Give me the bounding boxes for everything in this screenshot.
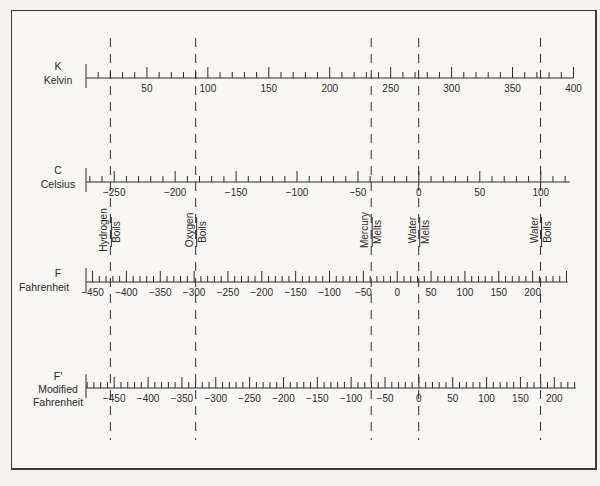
tick-label: −350 bbox=[149, 287, 172, 298]
tick-label: −400 bbox=[137, 393, 160, 404]
water-boils-label-line2: Boils bbox=[542, 221, 553, 243]
tick-label: −350 bbox=[171, 393, 194, 404]
oxygen-boils-label-line1: Oxygen bbox=[184, 213, 195, 247]
mercury-melts-label-line2: Melts bbox=[372, 220, 383, 244]
modified-fahrenheit-name-line1: Modified bbox=[38, 383, 78, 395]
tick-label: −100 bbox=[340, 393, 363, 404]
fahrenheit-symbol: F bbox=[55, 267, 61, 279]
tick-label: −50 bbox=[377, 393, 394, 404]
tick-label: −50 bbox=[355, 287, 372, 298]
tick-label: −100 bbox=[318, 287, 341, 298]
tick-label: 100 bbox=[200, 83, 217, 94]
modified-fahrenheit-name-line2: Fahrenheit bbox=[33, 396, 83, 408]
tick-label: 300 bbox=[443, 83, 460, 94]
tick-label: −300 bbox=[183, 287, 206, 298]
water-boils-label-line1: Water bbox=[529, 216, 540, 243]
tick-label: −100 bbox=[286, 187, 309, 198]
fahrenheit-name: Fahrenheit bbox=[19, 281, 69, 293]
tick-label: 200 bbox=[546, 393, 563, 404]
tick-label: 200 bbox=[524, 287, 541, 298]
fahrenheit-scale: F Fahrenheit −450−400−350−300−250−200−15… bbox=[19, 267, 568, 298]
kelvin-name: Kelvin bbox=[44, 74, 73, 86]
tick-label: −200 bbox=[272, 393, 295, 404]
tick-label: 100 bbox=[457, 287, 474, 298]
tick-label: −200 bbox=[164, 187, 187, 198]
tick-label: 0 bbox=[394, 287, 400, 298]
mercury-melts-label-line1: Mercury bbox=[359, 212, 370, 248]
tick-label: 350 bbox=[504, 83, 521, 94]
tick-label: 0 bbox=[416, 393, 422, 404]
oxygen-boils-label-line2: Boils bbox=[197, 221, 208, 243]
tick-label: −250 bbox=[103, 187, 126, 198]
tick-label: −450 bbox=[103, 393, 126, 404]
tick-label: 200 bbox=[321, 83, 338, 94]
tick-label: −250 bbox=[217, 287, 240, 298]
tick-label: 100 bbox=[532, 187, 549, 198]
tick-label: −200 bbox=[251, 287, 274, 298]
modified-fahrenheit-symbol: F′ bbox=[54, 370, 62, 382]
tick-label: −150 bbox=[284, 287, 307, 298]
tick-label: 150 bbox=[260, 83, 277, 94]
hydrogen-boils-label-line2: Boils bbox=[111, 221, 122, 243]
tick-label: −150 bbox=[306, 393, 329, 404]
tick-label: −50 bbox=[349, 187, 366, 198]
tick-label: −150 bbox=[225, 187, 248, 198]
tick-label: −250 bbox=[238, 393, 261, 404]
tick-label: 250 bbox=[382, 83, 399, 94]
celsius-symbol: C bbox=[54, 164, 62, 176]
celsius-name: Celsius bbox=[41, 178, 75, 190]
tick-label: 400 bbox=[565, 83, 582, 94]
reference-dashed-lines bbox=[110, 38, 540, 440]
tick-label: −400 bbox=[115, 287, 138, 298]
tick-label: −300 bbox=[205, 393, 228, 404]
tick-label: −450 bbox=[81, 287, 104, 298]
water-melts-label-line1: Water bbox=[407, 216, 418, 243]
tick-label: 50 bbox=[474, 187, 486, 198]
tick-label: 0 bbox=[416, 187, 422, 198]
kelvin-scale: K Kelvin 50100150200250300350400 bbox=[44, 60, 583, 94]
kelvin-symbol: K bbox=[54, 60, 61, 72]
tick-label: 150 bbox=[490, 287, 507, 298]
celsius-scale: C Celsius −250−200−150−100−50050100 bbox=[41, 164, 570, 198]
water-melts-label-line2: Melts bbox=[420, 220, 431, 244]
modified-fahrenheit-scale: F′ Modified Fahrenheit −450−400−350−300−… bbox=[33, 370, 576, 408]
tick-label: 150 bbox=[512, 393, 529, 404]
hydrogen-boils-label-line1: Hydrogen bbox=[98, 208, 109, 251]
tick-label: 50 bbox=[426, 287, 438, 298]
reference-point-labels: HydrogenBoilsOxygenBoilsMercuryMeltsWate… bbox=[98, 208, 552, 251]
tick-label: 50 bbox=[447, 393, 459, 404]
tick-label: 100 bbox=[478, 393, 495, 404]
temperature-scales-diagram: K Kelvin 50100150200250300350400 C Celsi… bbox=[0, 0, 600, 486]
tick-label: 50 bbox=[141, 83, 153, 94]
